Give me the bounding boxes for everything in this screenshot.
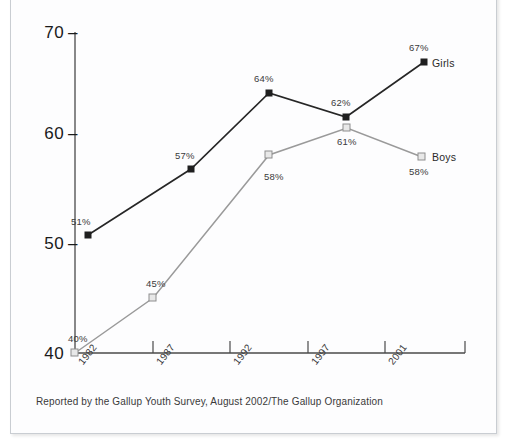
y-tick-dash: – bbox=[68, 23, 77, 43]
girls-marker bbox=[421, 59, 428, 66]
girls-marker bbox=[343, 114, 350, 121]
y-tick-label-60: 60 bbox=[30, 124, 64, 144]
girls-point-label-2001: 67% bbox=[409, 42, 429, 53]
boys-marker bbox=[71, 349, 78, 356]
boys-point-label-2001: 58% bbox=[409, 166, 429, 177]
boys-point-label-1992: 58% bbox=[264, 171, 284, 182]
boys-point-label-1997: 61% bbox=[337, 136, 357, 147]
girls-point-label-1997: 62% bbox=[331, 97, 351, 108]
y-tick-dash: – bbox=[68, 124, 77, 144]
y-tick-label-70: 70 bbox=[30, 23, 64, 43]
boys-marker bbox=[418, 153, 425, 160]
boys-point-label-1982: 40% bbox=[68, 333, 88, 344]
source-note: Reported by the Gallup Youth Survey, Aug… bbox=[36, 396, 383, 407]
girls-point-label-1992: 64% bbox=[254, 73, 274, 84]
girls-marker bbox=[266, 90, 273, 97]
boys-marker bbox=[265, 151, 272, 158]
girls-point-label-1987: 57% bbox=[175, 150, 195, 161]
boys-marker bbox=[343, 124, 350, 131]
boys-series-line bbox=[75, 128, 422, 353]
series-label-girls: Girls bbox=[432, 57, 455, 69]
girls-series-line bbox=[88, 62, 424, 235]
chart-page: 70 – 60 – 50 – 40 1982 1987 1992 1997 20… bbox=[0, 0, 512, 448]
girls-point-label-1982: 51% bbox=[71, 216, 91, 227]
series-label-boys: Boys bbox=[432, 151, 456, 163]
y-tick-dash: – bbox=[68, 234, 77, 254]
y-tick-label-40: 40 bbox=[30, 344, 64, 364]
girls-marker bbox=[188, 166, 195, 173]
y-tick-label-50: 50 bbox=[30, 234, 64, 254]
boys-point-label-1987: 45% bbox=[146, 278, 166, 289]
boys-marker bbox=[149, 294, 156, 301]
girls-marker bbox=[85, 232, 92, 239]
